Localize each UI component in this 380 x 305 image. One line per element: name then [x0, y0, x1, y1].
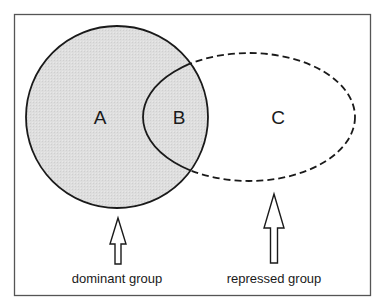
caption-repressed-group: repressed group	[227, 271, 322, 286]
region-label-b: B	[173, 107, 186, 128]
region-label-a: A	[94, 107, 107, 128]
region-label-c: C	[271, 107, 285, 128]
caption-dominant-group: dominant group	[72, 271, 162, 286]
venn-diagram: A B C dominant group repressed group	[0, 0, 380, 305]
